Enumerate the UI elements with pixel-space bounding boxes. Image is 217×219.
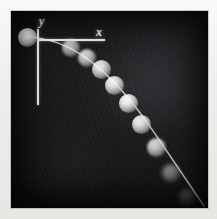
trajectory-path <box>19 36 204 206</box>
strobe-ball-7 <box>132 115 151 134</box>
strobe-ball-1 <box>18 28 37 47</box>
strobe-photo-figure: y x <box>0 0 217 219</box>
y-axis-label: y <box>39 15 44 27</box>
strobe-ball-9 <box>162 164 180 182</box>
strobe-ball-5 <box>105 76 124 95</box>
strobe-ball-2 <box>62 39 80 57</box>
photograph-plate: y x <box>11 11 208 208</box>
x-axis-label: x <box>96 26 102 38</box>
trajectory-path-glow <box>19 36 204 206</box>
strobe-ball-6 <box>119 94 138 113</box>
strobe-ball-10 <box>179 189 196 206</box>
strobe-ball-4 <box>92 60 111 79</box>
x-axis-line <box>37 39 105 41</box>
strobe-ball-8 <box>147 138 166 157</box>
